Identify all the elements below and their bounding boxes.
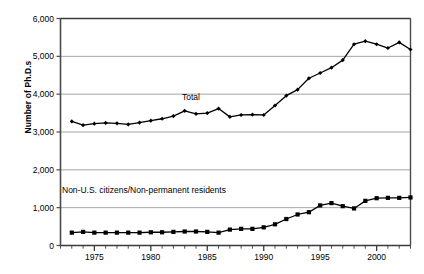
data-point (160, 230, 164, 234)
data-point (250, 227, 254, 231)
data-point (352, 206, 356, 210)
x-tick-label: 2000 (367, 252, 386, 262)
data-point (239, 113, 243, 117)
data-point (104, 231, 108, 235)
phd-line-chart: Number of Ph.D.s 01,0002,0003,0004,0005,… (0, 0, 424, 274)
data-point (386, 196, 390, 200)
data-point (250, 112, 254, 116)
data-point (397, 196, 401, 200)
plot-area (0, 0, 424, 274)
series-total (70, 39, 413, 127)
data-point (318, 203, 322, 207)
data-point (171, 230, 175, 234)
y-tick-label: 0 (49, 241, 54, 251)
series-label-total: Total (182, 92, 200, 102)
y-tick-label: 1,000 (33, 203, 54, 213)
data-point (126, 231, 130, 235)
data-point (295, 212, 299, 216)
data-point (70, 119, 74, 123)
x-tick-label: 1985 (198, 252, 217, 262)
x-tick-marks (61, 246, 411, 252)
gridlines (61, 19, 411, 208)
data-point (183, 109, 187, 113)
data-point (205, 111, 209, 115)
series-non-us (70, 195, 413, 234)
x-tick-label: 1975 (85, 252, 104, 262)
data-point (115, 231, 119, 235)
data-point (81, 123, 85, 127)
data-point (81, 230, 85, 234)
data-point (149, 230, 153, 234)
data-point (216, 231, 220, 235)
data-point (284, 217, 288, 221)
data-point (329, 201, 333, 205)
y-tick-label: 3,000 (33, 127, 54, 137)
x-tick-label: 1995 (311, 252, 330, 262)
data-point (408, 195, 412, 199)
data-point (205, 230, 209, 234)
data-point (307, 210, 311, 214)
x-tick-label: 1980 (141, 252, 160, 262)
data-point (183, 229, 187, 233)
data-point (375, 42, 379, 46)
data-point (363, 199, 367, 203)
data-point (341, 204, 345, 208)
data-point (126, 122, 130, 126)
data-point (137, 231, 141, 235)
data-point (363, 39, 367, 43)
y-tick-label: 6,000 (33, 14, 54, 24)
x-tick-label: 1990 (254, 252, 273, 262)
data-point (262, 225, 266, 229)
data-point (92, 231, 96, 235)
data-point (104, 121, 108, 125)
data-series-group (70, 39, 413, 235)
y-tick-label: 2,000 (33, 165, 54, 175)
data-point (194, 229, 198, 233)
data-point (228, 228, 232, 232)
y-tick-label-group: 01,0002,0003,0004,0005,0006,000 (18, 0, 54, 274)
data-point (70, 231, 74, 235)
data-point (137, 120, 141, 124)
y-tick-label: 4,000 (33, 89, 54, 99)
data-point (115, 121, 119, 125)
series-line (72, 41, 411, 125)
data-point (194, 112, 198, 116)
data-point (239, 227, 243, 231)
data-point (149, 119, 153, 123)
y-tick-label: 5,000 (33, 51, 54, 61)
series-label-non-us: Non-U.S. citizens/Non-permanent resident… (62, 185, 226, 195)
data-point (171, 114, 175, 118)
data-point (160, 117, 164, 121)
data-point (375, 196, 379, 200)
data-point (273, 222, 277, 226)
data-point (386, 46, 390, 50)
data-point (318, 71, 322, 75)
data-point (92, 122, 96, 126)
